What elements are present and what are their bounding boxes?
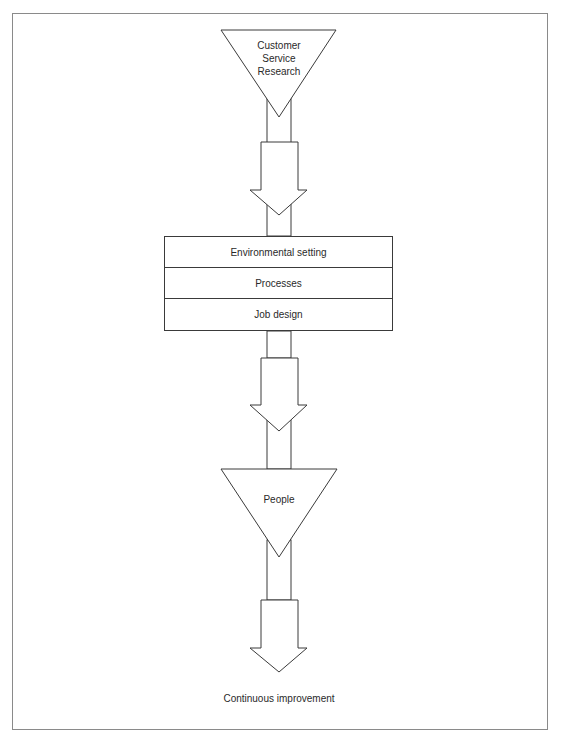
row-environmental-setting: Environmental setting (165, 237, 392, 268)
connector-shaft-3 (267, 331, 291, 358)
down-arrow-1 (250, 142, 307, 215)
continuous-improvement-label: Continuous improvement (199, 692, 359, 705)
stack-box: Environmental setting Processes Job desi… (164, 236, 393, 331)
row-job-design: Job design (165, 299, 392, 330)
top-triangle-line-2: Service (239, 52, 319, 65)
people-triangle (221, 469, 337, 557)
down-arrow-3 (250, 600, 307, 672)
top-triangle-label: Customer Service Research (239, 39, 319, 78)
flow-diagram-shapes (0, 0, 565, 742)
top-triangle-line-3: Research (239, 65, 319, 78)
top-triangle-line-1: Customer (239, 39, 319, 52)
row-processes: Processes (165, 268, 392, 299)
down-arrow-2 (250, 358, 307, 431)
people-label: People (239, 493, 319, 506)
